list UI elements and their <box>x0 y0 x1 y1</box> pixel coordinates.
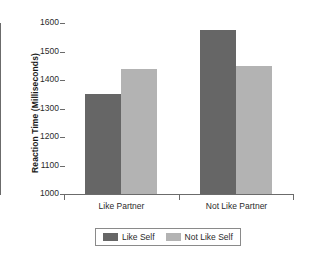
y-axis-tick-label: 1500 <box>25 46 59 56</box>
legend-swatch-icon-not-like-self <box>166 233 181 241</box>
legend: Like Self Not Like Self <box>95 228 241 246</box>
y-axis-tick-label: 1300 <box>25 103 59 113</box>
x-axis-tick-start <box>64 195 65 200</box>
plot-area <box>64 23 293 194</box>
legend-label-not-like-self: Not Like Self <box>185 232 233 242</box>
bar-not-like-partner-like-self <box>200 30 236 194</box>
bar-chart: Reaction Time (Milliseconds) 16001500140… <box>0 0 309 256</box>
y-axis-tick-label: 1200 <box>25 131 59 141</box>
legend-label-like-self: Like Self <box>122 232 155 242</box>
y-axis-tick-label: 1400 <box>25 74 59 84</box>
x-axis-label-not-like-partner: Not Like Partner <box>179 201 294 211</box>
y-axis-tick-label: 1000 <box>25 188 59 198</box>
legend-item-like-self: Like Self <box>103 232 155 242</box>
x-axis-tick-end <box>293 195 294 200</box>
bar-like-partner-like-self <box>85 94 121 194</box>
y-axis-tick-label: 1600 <box>25 17 59 27</box>
bar-not-like-partner-not-like-self <box>236 66 272 194</box>
x-axis-tick-middle <box>179 195 180 200</box>
x-axis-label-like-partner: Like Partner <box>64 201 179 211</box>
y-axis-line <box>0 23 1 195</box>
y-axis-tick-label: 1100 <box>25 160 59 170</box>
legend-item-not-like-self: Not Like Self <box>166 232 233 242</box>
bar-like-partner-not-like-self <box>121 69 157 194</box>
legend-swatch-icon-like-self <box>103 233 118 241</box>
